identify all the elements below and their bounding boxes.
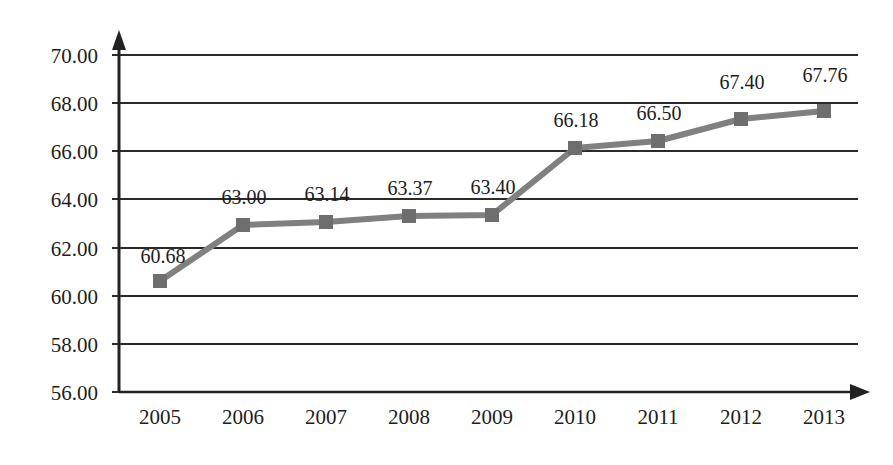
gridlines [112, 55, 858, 392]
y-axis [112, 30, 126, 392]
line-chart: 70.00 68.00 66.00 64.00 62.00 60.00 58.0… [0, 0, 893, 465]
y-tick-label-62: 62.00 [10, 237, 98, 262]
data-marker [319, 215, 333, 229]
y-tick-label-70: 70.00 [10, 44, 98, 69]
x-axis [119, 384, 870, 400]
data-marker [236, 218, 250, 232]
y-tick-label-64: 64.00 [10, 188, 98, 213]
data-label-2005: 60.68 [113, 245, 213, 268]
y-tick-label-68: 68.00 [10, 92, 98, 117]
data-marker [651, 134, 665, 148]
data-label-2011: 66.50 [609, 102, 709, 125]
data-marker [402, 209, 416, 223]
data-marker [568, 141, 582, 155]
y-tick-label-56: 56.00 [10, 381, 98, 406]
x-axis-arrow-icon [850, 384, 870, 400]
y-tick-label-60: 60.00 [10, 285, 98, 310]
data-label-2009: 63.40 [443, 176, 543, 199]
x-tick-label-2013: 2013 [774, 405, 874, 430]
data-marker [734, 112, 748, 126]
y-tick-label-58: 58.00 [10, 333, 98, 358]
data-label-2013: 67.76 [775, 64, 875, 87]
data-marker [153, 274, 167, 288]
y-tick-label-66: 66.00 [10, 140, 98, 165]
y-axis-arrow-icon [112, 30, 126, 50]
data-marker [817, 104, 831, 118]
chart-canvas [0, 0, 893, 465]
data-marker [485, 208, 499, 222]
